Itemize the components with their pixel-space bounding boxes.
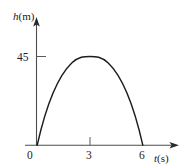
y-tick-label-45: 45	[17, 51, 29, 63]
parabola-chart: h(m) t(s) 45 0 3 6	[0, 0, 187, 167]
x-axis-label: t(s)	[154, 152, 169, 165]
x-tick-label-3: 3	[86, 149, 92, 161]
y-axis-label: h(m)	[13, 10, 35, 23]
x-axis-unit-glyph: (s)	[157, 152, 169, 165]
x-tick-label-6: 6	[139, 149, 145, 161]
parabola-curve	[37, 56, 143, 145]
y-axis-unit-glyph: (m)	[19, 10, 35, 23]
x-tick-label-0: 0	[27, 149, 33, 161]
figure-root: h(m) t(s) 45 0 3 6	[0, 0, 187, 167]
